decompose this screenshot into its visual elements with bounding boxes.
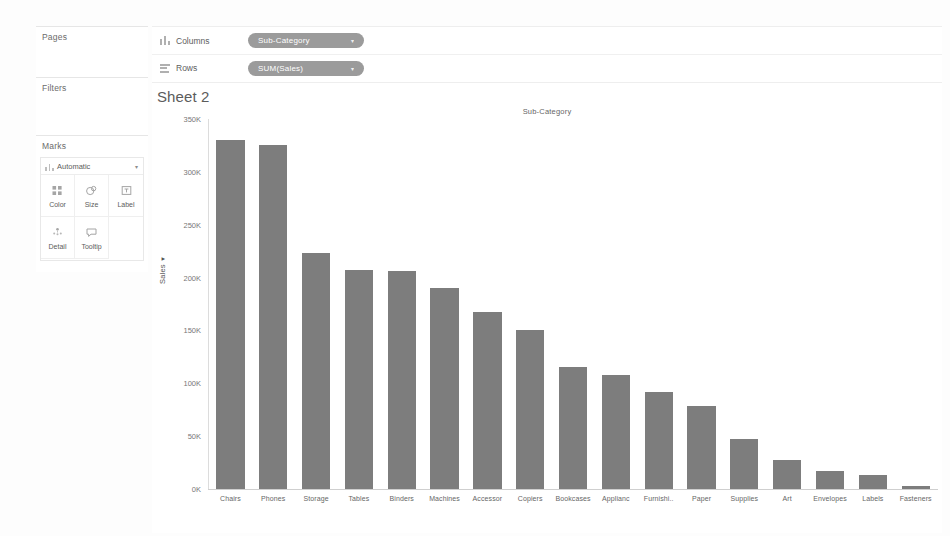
y-axis-ticks: 0K50K100K150K200K250K300K350K [166,119,204,489]
x-axis-tick-label[interactable]: Accessor [466,495,509,502]
columns-shelf[interactable]: Columns Sub-Category ▾ [152,27,942,54]
y-axis-tick: 300K [183,167,201,176]
x-axis-tick-label[interactable]: Applianc [594,495,637,502]
rows-shelf-label: Rows [176,63,248,73]
bar-mark[interactable] [430,288,458,489]
bar-slot [337,119,380,489]
bar-mark[interactable] [816,471,844,489]
x-axis-tick-label[interactable]: Art [766,495,809,502]
bar-mark[interactable] [216,140,244,489]
column-field-header: Sub-Category [152,107,942,116]
x-axis-tick-label[interactable]: Storage [295,495,338,502]
mark-property-buttons: Color Size [41,175,143,259]
y-axis-tick: 250K [183,220,201,229]
bar-mark[interactable] [859,475,887,489]
marks-tooltip-label: Tooltip [81,243,101,250]
y-axis-tick: 150K [183,326,201,335]
detail-dots-icon [51,226,64,239]
pill-sub-category-text: Sub-Category [258,36,347,45]
page-title: Sheet 2 [157,88,209,105]
pill-sub-category[interactable]: Sub-Category ▾ [248,33,364,48]
bar-slot [723,119,766,489]
bar-slot [295,119,338,489]
x-axis-tick-label[interactable]: Fasteners [894,495,937,502]
bar-slot [809,119,852,489]
x-axis-tick-label[interactable]: Binders [380,495,423,502]
marks-tooltip-button[interactable]: Tooltip [75,217,109,259]
marks-color-label: Color [49,201,66,208]
bar-slot [637,119,680,489]
columns-rows-shelf-area: Columns Sub-Category ▾ Rows SUM(Sales) ▾ [152,26,942,83]
marks-empty-slot [109,217,143,259]
bar-mark[interactable] [730,439,758,489]
y-axis-tick: 100K [183,379,201,388]
chevron-down-icon: ▾ [351,37,354,44]
bar-mark[interactable] [388,271,416,489]
rows-glyph-icon [160,64,170,73]
x-axis-tick-label[interactable]: Copiers [509,495,552,502]
marks-shelf-label: Marks [36,136,148,155]
x-axis-tick-label[interactable]: Furnishi.. [637,495,680,502]
y-axis-tick: 200K [183,273,201,282]
y-axis-tick: 50K [188,432,201,441]
bar-mark[interactable] [687,406,715,490]
bar-mark[interactable] [473,312,501,489]
bar-mark[interactable] [602,375,630,489]
bar-mark[interactable] [902,486,930,489]
bar-slot [380,119,423,489]
bar-mark[interactable] [345,270,373,489]
marks-label-button[interactable]: Label [109,175,143,217]
left-cards-panel: Pages Filters Marks Automatic ▾ [36,26,148,272]
x-axis-tick-label[interactable]: Labels [851,495,894,502]
x-axis-labels: ChairsPhonesStorageTablesBindersMachines… [209,495,937,502]
x-axis-tick-label[interactable]: Tables [337,495,380,502]
bar-mark[interactable] [259,145,287,489]
bar-slot [252,119,295,489]
y-axis-tick: 350K [183,115,201,124]
bar-slot [851,119,894,489]
rows-shelf[interactable]: Rows SUM(Sales) ▾ [152,54,942,81]
marks-card: Automatic ▾ Color [40,157,144,261]
bar-slot [509,119,552,489]
x-axis-tick-label[interactable]: Machines [423,495,466,502]
bar-slot [680,119,723,489]
x-axis-tick-label[interactable]: Bookcases [552,495,595,502]
tooltip-speech-bubble-icon [85,226,98,239]
marks-color-button[interactable]: Color [41,175,75,217]
pill-sum-sales[interactable]: SUM(Sales) ▾ [248,61,364,76]
x-axis-tick-label[interactable]: Paper [680,495,723,502]
columns-shelf-label: Columns [176,36,248,46]
bar-mark[interactable] [302,253,330,489]
bar-mark-icon [45,162,54,171]
filters-shelf[interactable]: Filters [36,78,148,136]
bar-chart-plot: Sales ▼ 0K50K100K150K200K250K300K350K Ch… [152,119,942,529]
x-axis-tick-label[interactable]: Supplies [723,495,766,502]
y-axis-tick: 0K [192,485,201,494]
bar-mark[interactable] [645,392,673,489]
x-axis-tick-label[interactable]: Phones [252,495,295,502]
x-axis-tick-label[interactable]: Envelopes [809,495,852,502]
marks-size-button[interactable]: Size [75,175,109,217]
marks-detail-button[interactable]: Detail [41,217,75,259]
tableau-worksheet-window: Pages Filters Marks Automatic ▾ [0,0,950,536]
bar-slot [552,119,595,489]
bar-slot [894,119,937,489]
pages-shelf[interactable]: Pages [36,26,148,78]
bar-mark[interactable] [559,367,587,489]
bar-mark[interactable] [516,330,544,489]
bar-slot [466,119,509,489]
marks-size-label: Size [85,201,99,208]
chevron-down-icon: ▾ [135,163,139,170]
size-circles-icon [85,184,98,197]
filters-shelf-label: Filters [36,78,148,97]
color-squares-icon [51,184,64,197]
mark-type-value: Automatic [57,162,135,171]
worksheet-canvas: Sheet 2 Sub-Category Sales ▼ 0K50K100K15… [152,83,942,533]
bar-slot [766,119,809,489]
marks-detail-label: Detail [49,243,67,250]
mark-type-dropdown[interactable]: Automatic ▾ [41,158,143,175]
bar-mark[interactable] [773,460,801,489]
x-axis-tick-label[interactable]: Chairs [209,495,252,502]
pages-shelf-label: Pages [36,27,148,46]
pill-sum-sales-text: SUM(Sales) [258,64,347,73]
